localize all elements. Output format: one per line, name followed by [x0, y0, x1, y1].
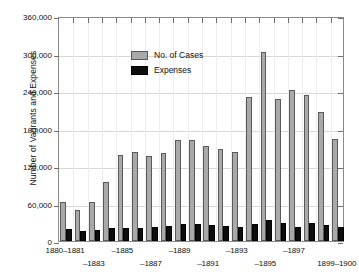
- x-axis-tick-label: –1891: [197, 259, 219, 268]
- x-axis-tick-label: –1885: [111, 246, 133, 255]
- y-axis-tick-label: 300,000: [23, 50, 52, 59]
- x-axis-tick-label: –1889: [169, 246, 191, 255]
- x-axis-tick-label: –1895: [254, 259, 276, 268]
- bar-expenses: [138, 228, 144, 241]
- x-axis-tick-label: –1893: [226, 246, 248, 255]
- plot-area: No. of Cases Expenses: [58, 17, 344, 242]
- legend-item-expenses: Expenses: [131, 66, 203, 75]
- y-axis-tick: [54, 93, 59, 94]
- bar-group: [288, 16, 302, 241]
- bar-expenses: [109, 228, 115, 241]
- bar-group: [131, 16, 145, 241]
- bar-group: [274, 16, 288, 241]
- bar-group: [102, 16, 116, 241]
- chart-legend: No. of Cases Expenses: [131, 51, 203, 81]
- bar-group: [259, 16, 273, 241]
- bar-expenses: [324, 225, 330, 241]
- bar-group: [302, 16, 316, 241]
- bar-group: [116, 16, 130, 241]
- y-axis-tick: [54, 18, 59, 19]
- legend-label-expenses: Expenses: [154, 66, 191, 75]
- y-axis-tick: [54, 206, 59, 207]
- bar-expenses: [80, 231, 86, 241]
- bar-group: [59, 16, 73, 241]
- bar-expenses: [309, 223, 315, 241]
- bar-expenses: [295, 227, 301, 241]
- y-axis-tick-label: 240,000: [23, 88, 52, 97]
- bar-no-of-cases: [318, 112, 324, 241]
- bar-expenses: [166, 226, 172, 241]
- right-axis-tick: [338, 243, 343, 244]
- x-axis-tick-label: –1887: [140, 259, 162, 268]
- bar-group: [331, 16, 345, 241]
- vagrants-expenses-bar-chart: Number of Vagrants and Expenses 060,0001…: [0, 0, 359, 275]
- bar-group: [245, 16, 259, 241]
- y-axis-tick-label: 120,000: [23, 163, 52, 172]
- bar-no-of-cases: [275, 99, 281, 242]
- y-axis-tick-label: 360,000: [23, 13, 52, 22]
- legend-swatch-expenses: [131, 66, 148, 75]
- bar-expenses: [266, 220, 272, 241]
- bar-expenses: [95, 230, 101, 241]
- bar-expenses: [338, 227, 344, 241]
- legend-item-cases: No. of Cases: [131, 51, 203, 60]
- y-axis-tick: [54, 168, 59, 169]
- bar-group: [316, 16, 330, 241]
- bar-no-of-cases: [304, 95, 310, 241]
- y-axis-tick: [54, 131, 59, 132]
- bar-no-of-cases: [289, 90, 295, 241]
- bar-expenses: [152, 227, 158, 241]
- bar-no-of-cases: [261, 52, 267, 241]
- x-axis-tick-label: –1883: [83, 259, 105, 268]
- bar-expenses: [123, 228, 129, 241]
- y-axis-tick-label: 180,000: [23, 125, 52, 134]
- bar-group: [202, 16, 216, 241]
- bar-group: [88, 16, 102, 241]
- legend-swatch-cases: [131, 51, 148, 60]
- bar-no-of-cases: [246, 97, 252, 241]
- bar-expenses: [66, 229, 72, 241]
- bar-expenses: [181, 224, 187, 242]
- x-axis-tick-label: –1897: [283, 246, 305, 255]
- y-axis-tick: [54, 243, 59, 244]
- bar-expenses: [281, 223, 287, 241]
- bar-group: [73, 16, 87, 241]
- x-axis-tick-label: 1899–1900: [317, 259, 356, 268]
- bar-expenses: [238, 227, 244, 241]
- bar-no-of-cases: [332, 139, 338, 241]
- bar-expenses: [252, 224, 258, 242]
- bar-expenses: [209, 225, 215, 241]
- x-axis-tick-label: 1880–1881: [46, 246, 85, 255]
- bar-expenses: [195, 224, 201, 242]
- y-axis-tick: [54, 56, 59, 57]
- bar-group: [231, 16, 245, 241]
- bar-expenses: [223, 226, 229, 241]
- bar-group: [216, 16, 230, 241]
- y-axis-tick-label: 60,000: [28, 200, 52, 209]
- legend-label-cases: No. of Cases: [154, 51, 203, 60]
